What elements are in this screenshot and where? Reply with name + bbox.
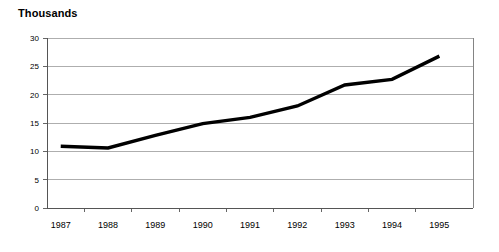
x-axis-ticks [84, 208, 415, 212]
y-tick-label-30: 30 [30, 34, 39, 43]
y-tick-label-20: 20 [30, 91, 39, 100]
x-tick-label-1992: 1992 [287, 220, 307, 230]
y-tick-label-15: 15 [30, 119, 39, 128]
chart-figure: Thousands 30 25 20 15 [0, 0, 499, 252]
y-axis-tick-labels: 30 25 20 15 10 5 0 [30, 34, 39, 213]
y-tick-label-10: 10 [30, 147, 39, 156]
x-tick-label-1990: 1990 [193, 220, 213, 230]
x-tick-label-1993: 1993 [335, 220, 355, 230]
x-axis-tick-labels: 1987 1988 1989 1990 1991 1992 1993 1994 … [51, 220, 450, 230]
x-tick-label-1991: 1991 [240, 220, 260, 230]
data-series-line-thousands [61, 56, 440, 148]
x-tick-label-1988: 1988 [98, 220, 118, 230]
x-tick-label-1994: 1994 [382, 220, 402, 230]
gridlines [47, 38, 473, 180]
y-tick-label-25: 25 [30, 62, 39, 71]
y-tick-label-5: 5 [35, 176, 40, 185]
x-tick-label-1995: 1995 [429, 220, 449, 230]
y-tick-label-0: 0 [35, 204, 40, 213]
y-axis-ticks [43, 38, 47, 208]
x-tick-label-1989: 1989 [145, 220, 165, 230]
x-tick-label-1987: 1987 [51, 220, 71, 230]
line-chart-plot: 30 25 20 15 10 5 0 1987 1988 1989 1990 1… [0, 0, 499, 252]
